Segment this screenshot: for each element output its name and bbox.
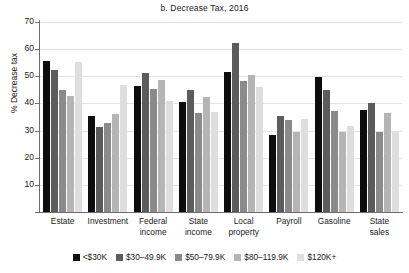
- y-tick-mark: [35, 22, 39, 23]
- x-axis-line: [39, 212, 403, 213]
- bar: [158, 80, 165, 212]
- bar: [360, 110, 367, 212]
- y-tick-mark: [35, 185, 39, 186]
- bar: [315, 77, 322, 212]
- bars-area: [40, 22, 402, 212]
- bar: [211, 112, 218, 212]
- bar: [277, 116, 284, 212]
- bar: [203, 97, 210, 212]
- x-category-label: Investment: [85, 216, 130, 227]
- bar: [112, 114, 119, 212]
- y-tick-label: 50: [6, 70, 34, 80]
- y-tick-label: 40: [6, 97, 34, 107]
- x-category-label: Localproperty: [221, 216, 266, 237]
- legend-item[interactable]: $80–119.9K: [234, 252, 288, 262]
- x-category-line: State: [357, 216, 402, 227]
- legend-swatch-icon: [73, 254, 80, 261]
- bar: [248, 75, 255, 212]
- legend-swatch-icon: [297, 254, 304, 261]
- x-category-line: income: [176, 227, 221, 238]
- bar-group: [357, 22, 402, 212]
- bar: [285, 120, 292, 212]
- x-category-line: Estate: [40, 216, 85, 227]
- chart-container: b. Decrease Tax, 2016 % Decrease tax 102…: [0, 0, 409, 273]
- bar: [104, 123, 111, 212]
- bar: [59, 90, 66, 212]
- legend-swatch-icon: [234, 254, 241, 261]
- legend-label: $50–79.9K: [185, 252, 225, 262]
- chart-title: b. Decrease Tax, 2016: [0, 3, 409, 13]
- y-tick-mark: [35, 212, 39, 213]
- y-tick-label: 20: [6, 152, 34, 162]
- bar: [51, 70, 58, 212]
- bar: [232, 43, 239, 212]
- bar-group: [131, 22, 176, 212]
- x-category-label: Estate: [40, 216, 85, 227]
- bar: [347, 126, 354, 212]
- legend-swatch-icon: [175, 254, 182, 261]
- bar: [240, 81, 247, 212]
- chart-legend: <$30K$30–49.9K$50–79.9K$80–119.9K$120K+: [0, 252, 409, 262]
- bar: [195, 113, 202, 212]
- x-category-label: Statesales: [357, 216, 402, 237]
- x-category-label: Stateincome: [176, 216, 221, 237]
- y-tick-label: 30: [6, 125, 34, 135]
- bar: [120, 85, 127, 212]
- x-category-line: Local: [221, 216, 266, 227]
- bar: [96, 127, 103, 212]
- legend-item[interactable]: $120K+: [297, 252, 336, 262]
- bar-group: [221, 22, 266, 212]
- bar-group: [85, 22, 130, 212]
- y-tick-mark: [35, 131, 39, 132]
- x-category-line: sales: [357, 227, 402, 238]
- y-tick-label: 70: [6, 16, 34, 26]
- x-category-line: Gasoline: [312, 216, 357, 227]
- bar: [43, 61, 50, 212]
- bar: [384, 113, 391, 212]
- y-tick-label: 10: [6, 179, 34, 189]
- x-category-line: Investment: [85, 216, 130, 227]
- bar: [88, 116, 95, 212]
- bar-group: [266, 22, 311, 212]
- bar: [376, 132, 383, 212]
- bar: [293, 132, 300, 212]
- bar: [301, 119, 308, 212]
- x-category-label: Gasoline: [312, 216, 357, 227]
- bar: [269, 135, 276, 212]
- bar: [224, 72, 231, 212]
- legend-label: $80–119.9K: [244, 252, 288, 262]
- bar: [331, 111, 338, 212]
- bar: [187, 90, 194, 212]
- bar: [323, 90, 330, 212]
- x-category-label: Federalincome: [131, 216, 176, 237]
- bar: [179, 102, 186, 212]
- bar: [368, 103, 375, 212]
- x-category-line: Payroll: [266, 216, 311, 227]
- legend-label: $30–49.9K: [126, 252, 166, 262]
- y-tick-label: 60: [6, 43, 34, 53]
- y-tick-mark: [35, 103, 39, 104]
- bar-group: [40, 22, 85, 212]
- legend-item[interactable]: $50–79.9K: [175, 252, 225, 262]
- legend-label: <$30K: [83, 252, 107, 262]
- bar: [134, 86, 141, 212]
- bar: [166, 101, 173, 212]
- y-tick-mark: [35, 49, 39, 50]
- x-category-line: income: [131, 227, 176, 238]
- x-category-line: Federal: [131, 216, 176, 227]
- bar: [142, 73, 149, 212]
- bar-group: [312, 22, 357, 212]
- bar: [67, 96, 74, 212]
- legend-item[interactable]: <$30K: [73, 252, 107, 262]
- bar: [392, 132, 399, 212]
- bar: [256, 87, 263, 212]
- bar: [339, 132, 346, 212]
- x-category-line: property: [221, 227, 266, 238]
- x-category-label: Payroll: [266, 216, 311, 227]
- x-category-line: State: [176, 216, 221, 227]
- y-tick-mark: [35, 76, 39, 77]
- legend-label: $120K+: [307, 252, 336, 262]
- legend-item[interactable]: $30–49.9K: [116, 252, 166, 262]
- bar: [75, 62, 82, 212]
- legend-swatch-icon: [116, 254, 123, 261]
